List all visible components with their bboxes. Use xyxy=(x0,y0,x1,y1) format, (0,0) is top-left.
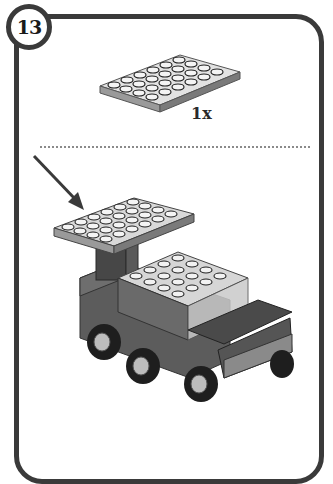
plate-4x6-icon xyxy=(100,55,240,112)
wheel xyxy=(126,348,160,384)
part-quantity: 1x xyxy=(191,104,212,123)
wheel xyxy=(270,350,294,378)
callout-divider xyxy=(40,146,310,148)
truck-assembly xyxy=(54,198,294,402)
wheel xyxy=(184,366,218,402)
arrow-down-right-icon xyxy=(34,156,84,210)
wheel xyxy=(87,324,121,360)
